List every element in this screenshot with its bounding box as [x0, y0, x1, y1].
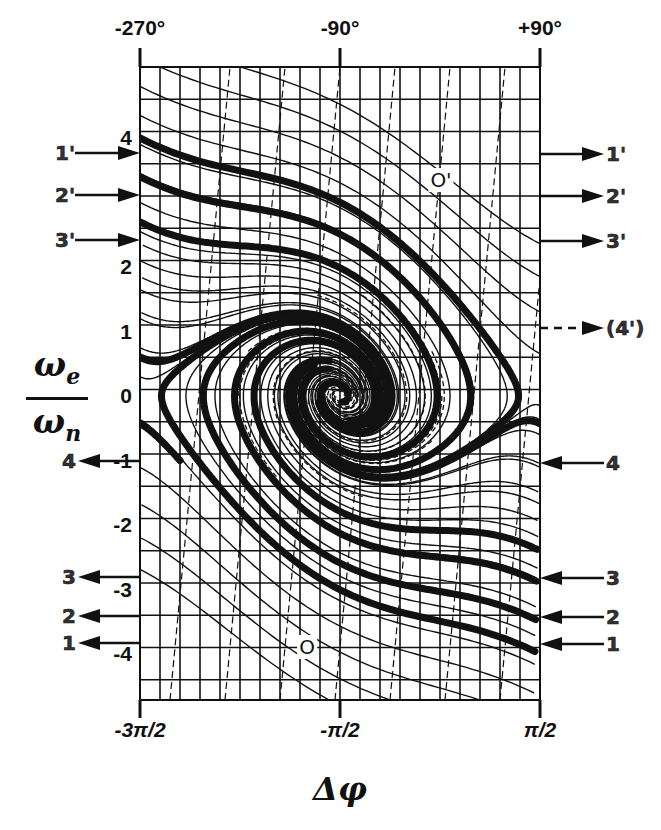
right-arrow-label: 3' — [606, 229, 626, 253]
y-axis-label-numerator: ωe — [22, 345, 92, 395]
right-arrow-label: 3 — [606, 566, 620, 590]
left-arrow-label: 1 — [62, 631, 76, 655]
y-tick-label: 0 — [92, 384, 132, 408]
arrow — [540, 456, 604, 470]
left-arrow-label: 3' — [55, 228, 75, 252]
y-tick-label: 2 — [92, 255, 132, 279]
arrow — [540, 571, 604, 585]
x-tick-top-label: -90° — [321, 16, 360, 40]
right-arrow-label: 4 — [606, 451, 620, 475]
trajectories — [140, 28, 560, 779]
x-tick-top-label: -270° — [115, 16, 165, 40]
right-arrow-label: (4') — [606, 316, 644, 340]
arrow — [78, 609, 140, 623]
left-arrow-label: 4 — [62, 449, 76, 473]
left-arrow-label: 2 — [62, 604, 76, 628]
arrow — [540, 637, 604, 651]
y-tick-label: -4 — [92, 642, 132, 666]
phase-plane-plot — [0, 0, 661, 830]
y-tick-label: -1 — [92, 449, 132, 473]
x-tick-bottom-label: π/2 — [524, 718, 556, 742]
right-arrow-label: 1 — [606, 632, 620, 656]
y-tick-label: -2 — [92, 513, 132, 537]
phase-plane-figure: ωe ωn Δφ 1'2'3'43211'2'3'(4')4321-270°-9… — [0, 0, 661, 830]
x-axis-label: Δφ — [313, 770, 367, 808]
right-arrow-label: 2 — [606, 605, 620, 629]
left-arrow-label: 2' — [55, 183, 75, 207]
y-tick-label: 1 — [92, 320, 132, 344]
y-axis-label: ωe ωn — [22, 345, 92, 452]
fraction-bar — [26, 397, 88, 400]
arrow — [540, 189, 604, 203]
arrow — [540, 321, 604, 335]
point-label: O' — [428, 168, 453, 192]
arrow — [540, 610, 604, 624]
y-tick-label: 4 — [92, 126, 132, 150]
arrow — [75, 188, 140, 202]
left-arrow-label: 3 — [62, 565, 76, 589]
point-label: O — [297, 635, 317, 659]
arrow — [540, 147, 604, 161]
x-tick-top-label: +90° — [518, 16, 562, 40]
y-tick-label: -3 — [92, 578, 132, 602]
x-tick-bottom-label: -π/2 — [320, 718, 359, 742]
right-arrow-label: 2' — [606, 184, 626, 208]
y-axis-label-denominator: ωn — [22, 402, 92, 452]
arrow — [540, 234, 604, 248]
right-arrow-label: 1' — [606, 142, 626, 166]
x-tick-bottom-label: -3π/2 — [114, 718, 165, 742]
arrow — [75, 233, 140, 247]
left-arrow-label: 1' — [55, 141, 75, 165]
